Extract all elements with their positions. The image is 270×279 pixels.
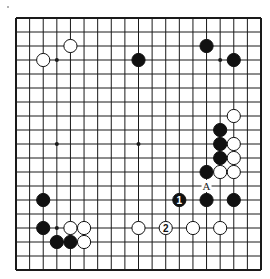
white-stone xyxy=(227,137,240,150)
black-stone xyxy=(132,53,145,66)
black-stone xyxy=(227,53,240,66)
black-stone xyxy=(200,39,213,52)
black-stone xyxy=(227,193,240,206)
black-stone xyxy=(200,165,213,178)
go-board: A12 xyxy=(0,0,270,279)
white-stone xyxy=(37,53,50,66)
white-stone xyxy=(214,221,227,234)
white-stone xyxy=(227,109,240,122)
star-point xyxy=(55,226,59,230)
black-stone xyxy=(37,221,50,234)
board-mark-label: A xyxy=(203,180,211,192)
white-stone xyxy=(214,165,227,178)
white-stone xyxy=(64,221,77,234)
star-point xyxy=(218,58,222,62)
black-stone xyxy=(50,235,63,248)
black-stone xyxy=(200,193,213,206)
black-stone xyxy=(214,123,227,136)
black-stone xyxy=(214,151,227,164)
white-stone xyxy=(227,151,240,164)
star-point xyxy=(55,58,59,62)
black-stone xyxy=(214,137,227,150)
white-stone xyxy=(186,221,199,234)
white-stone xyxy=(64,39,77,52)
white-stone xyxy=(77,235,90,248)
white-stone xyxy=(77,221,90,234)
white-stone xyxy=(227,165,240,178)
black-stone xyxy=(37,193,50,206)
star-point xyxy=(137,142,141,146)
star-point xyxy=(55,142,59,146)
stone-move-number: 1 xyxy=(177,195,183,206)
stone-move-number: 2 xyxy=(163,223,169,234)
white-stone xyxy=(132,221,145,234)
black-stone xyxy=(64,235,77,248)
